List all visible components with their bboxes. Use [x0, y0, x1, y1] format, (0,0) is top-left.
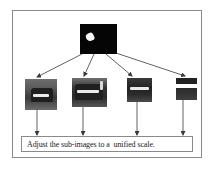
sub-image-1 [25, 79, 57, 110]
car-highlight [130, 87, 149, 90]
arrow-to-sub-image-1 [37, 54, 82, 77]
mask-blob [85, 32, 96, 43]
caption-text: Adjust the sub-images to a unified scale… [27, 140, 155, 149]
mask-image [80, 24, 117, 54]
arrow-to-sub-image-4 [116, 53, 185, 76]
arrow-to-sub-image-2 [84, 54, 94, 76]
sub-image-4-top-band [176, 78, 197, 84]
sub-image-4 [176, 78, 197, 100]
car-highlight [77, 90, 99, 93]
caption-box: Adjust the sub-images to a unified scale… [21, 136, 193, 152]
car-mirror [100, 81, 103, 90]
car-highlight [33, 94, 49, 97]
sub-image-3 [127, 78, 152, 102]
sub-image-4-bottom-band [176, 88, 197, 100]
sub-image-2 [72, 78, 107, 107]
